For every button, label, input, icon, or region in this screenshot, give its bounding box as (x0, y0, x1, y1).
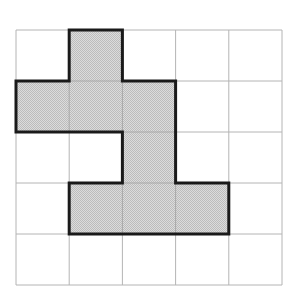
shaded-cell (176, 183, 229, 234)
shaded-cell (69, 81, 122, 132)
shaded-cell (122, 183, 175, 234)
shaded-cell (122, 132, 175, 183)
shaded-cell (16, 81, 69, 132)
grid-diagram (0, 0, 296, 299)
shaded-cell (122, 81, 175, 132)
shaded-cell (69, 183, 122, 234)
shaded-cell (69, 30, 122, 81)
figure-root (0, 0, 296, 299)
